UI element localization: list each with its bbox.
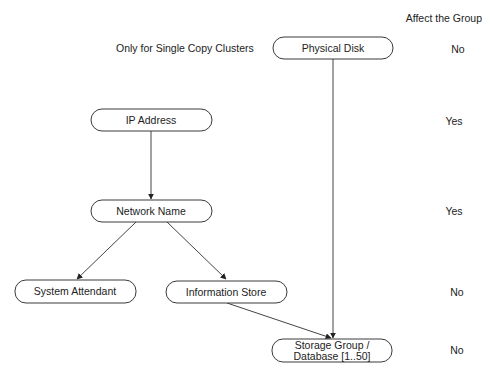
edge-network-to-information-store — [167, 222, 226, 279]
edge-information-store-to-storage-group — [227, 303, 331, 338]
single-copy-clusters-note: Only for Single Copy Clusters — [116, 42, 254, 54]
node-physical-disk[interactable]: Physical Disk — [273, 37, 393, 59]
node-label: System Attendant — [34, 285, 116, 297]
affect-value-ip-address: Yes — [445, 115, 462, 127]
affect-value-physical-disk: No — [451, 43, 465, 55]
affect-value-network-name: Yes — [445, 205, 462, 217]
dependency-diagram: Physical Disk IP Address Network Name Sy… — [0, 0, 493, 378]
edge-network-to-system-attendant — [77, 222, 136, 279]
node-storage-group[interactable]: Storage Group / Database [1..50] — [272, 339, 392, 362]
node-information-store[interactable]: Information Store — [166, 281, 287, 303]
node-label: Information Store — [186, 286, 267, 298]
node-label: Network Name — [116, 205, 186, 217]
affect-column-header: Affect the Group — [406, 12, 482, 24]
affect-value-information-store: No — [450, 286, 464, 298]
node-network-name[interactable]: Network Name — [91, 200, 212, 222]
node-label-line2: Database [1..50] — [293, 350, 370, 362]
node-system-attendant[interactable]: System Attendant — [15, 280, 136, 303]
node-label: IP Address — [126, 114, 177, 126]
affect-value-storage-group: No — [450, 344, 464, 356]
node-ip-address[interactable]: IP Address — [91, 109, 212, 131]
node-label: Physical Disk — [302, 42, 365, 54]
